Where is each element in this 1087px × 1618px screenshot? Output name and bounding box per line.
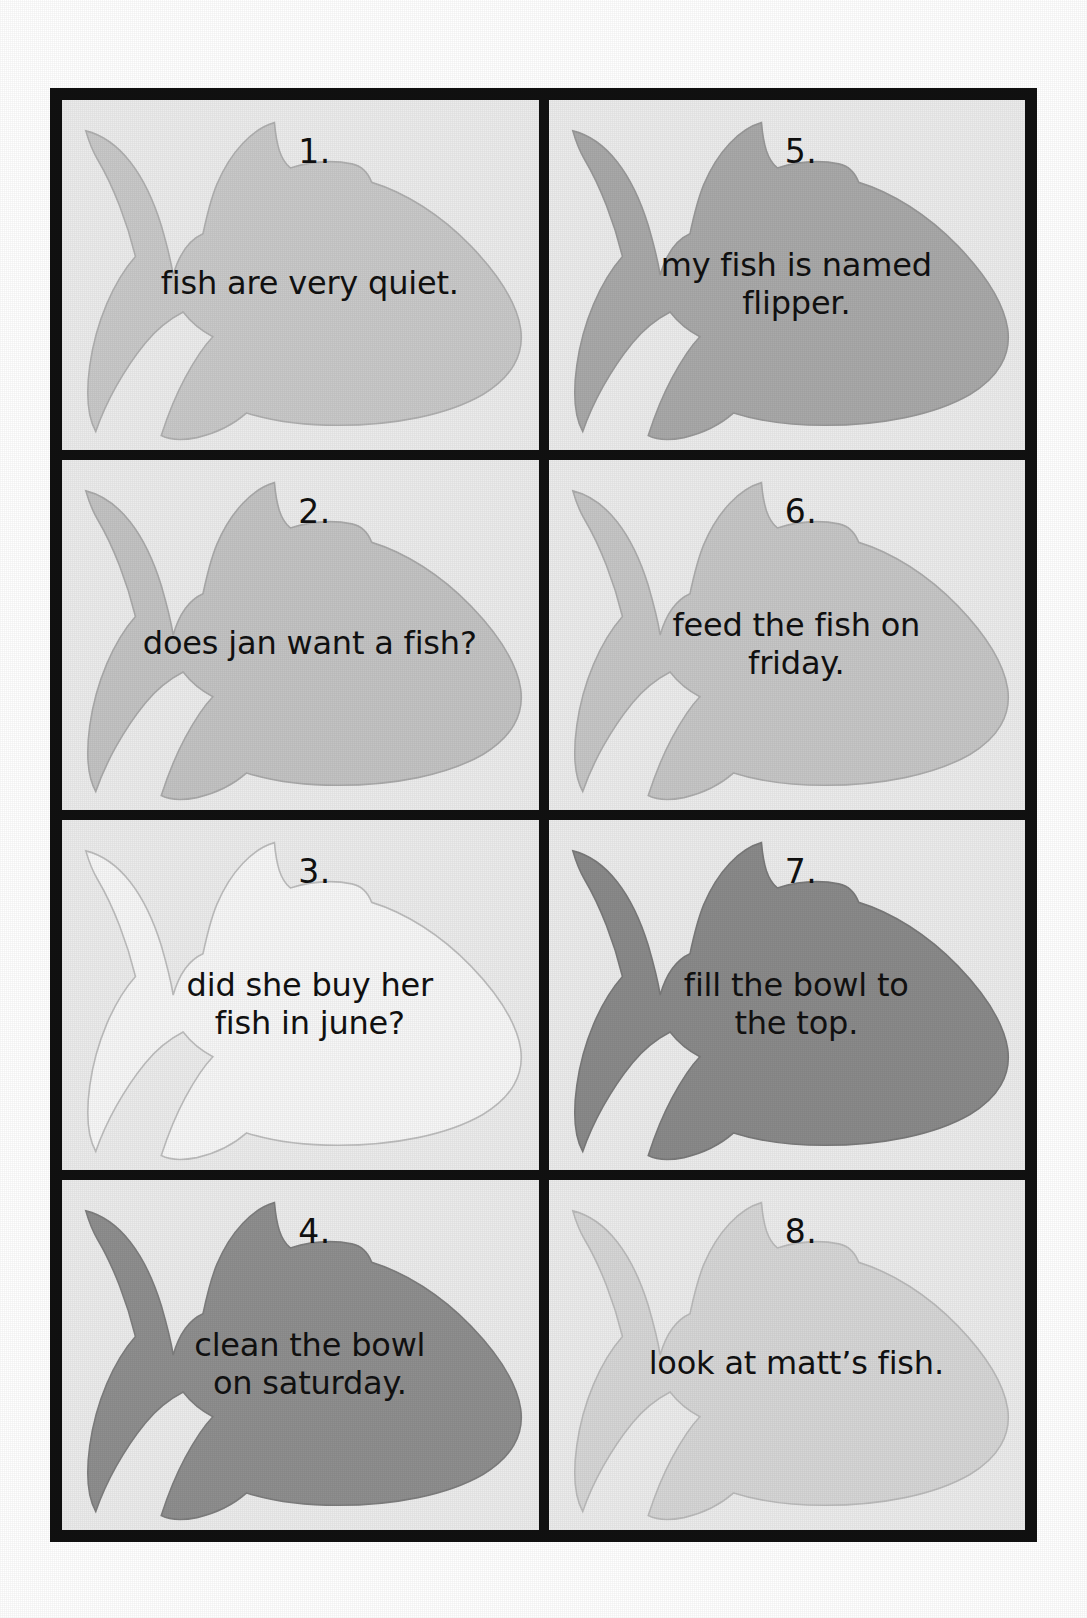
fish-card[interactable]: 2.does jan want a fish? [62,460,539,810]
fish-card[interactable]: 1.fish are very quiet. [62,100,539,450]
fish-silhouette-icon [62,1180,539,1530]
fish-card[interactable]: 4.clean the bowlon saturday. [62,1180,539,1530]
fish-silhouette-icon [549,100,1026,450]
fish-silhouette-icon [549,1180,1026,1530]
fish-silhouette-icon [62,100,539,450]
fish-silhouette-icon [549,460,1026,810]
fish-card-grid: 1.fish are very quiet.5.my fish is named… [50,88,1037,1542]
fish-card[interactable]: 6.feed the fish onfriday. [549,460,1026,810]
fish-silhouette-icon [62,460,539,810]
fish-card[interactable]: 5.my fish is namedflipper. [549,100,1026,450]
fish-card[interactable]: 8.look at matt’s fish. [549,1180,1026,1530]
fish-card[interactable]: 7.fill the bowl tothe top. [549,820,1026,1170]
fish-card[interactable]: 3.did she buy herfish in june? [62,820,539,1170]
fish-silhouette-icon [549,820,1026,1170]
worksheet-page: 1.fish are very quiet.5.my fish is named… [0,0,1087,1618]
fish-silhouette-icon [62,820,539,1170]
